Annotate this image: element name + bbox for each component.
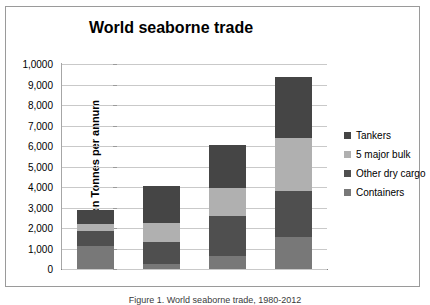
- bar-segment-other-dry-cargo[interactable]: [77, 231, 114, 246]
- bar-2000[interactable]: [209, 64, 246, 269]
- bar-segment-containers[interactable]: [209, 256, 246, 269]
- legend-label: Tankers: [356, 131, 391, 141]
- y-tick-label: 5,000: [7, 161, 53, 172]
- bar-2012[interactable]: [275, 64, 312, 269]
- bar-segment-tankers[interactable]: [275, 77, 312, 137]
- legend-label: 5 major bulk: [356, 150, 410, 160]
- legend-swatch-icon: [344, 189, 351, 196]
- bar-segment-5-major-bulk[interactable]: [143, 223, 180, 242]
- chart-legend: Tankers5 major bulkOther dry cargoContai…: [344, 126, 425, 202]
- bar-segment-tankers[interactable]: [209, 145, 246, 188]
- bar-segment-5-major-bulk[interactable]: [77, 224, 114, 231]
- chart-title: World seaborne trade: [6, 19, 336, 37]
- figure-container: World seaborne trade Billion Tonnes per …: [0, 0, 430, 305]
- y-tick-label: 1,000: [7, 243, 53, 254]
- bar-segment-other-dry-cargo[interactable]: [143, 242, 180, 264]
- bar-segment-containers[interactable]: [275, 237, 312, 269]
- legend-swatch-icon: [344, 151, 351, 158]
- legend-swatch-icon: [344, 132, 351, 139]
- y-tick-label: 1,0000: [7, 59, 53, 70]
- bars-layer: [62, 64, 327, 269]
- gridline: [62, 269, 327, 270]
- y-tick-label: 7,000: [7, 120, 53, 131]
- legend-item-5-major-bulk[interactable]: 5 major bulk: [344, 145, 425, 164]
- legend-label: Containers: [356, 188, 404, 198]
- y-tick-mark: [113, 269, 117, 270]
- legend-label: Other dry cargo: [356, 169, 425, 179]
- legend-item-containers[interactable]: Containers: [344, 183, 425, 202]
- y-tick-label: 9,000: [7, 79, 53, 90]
- y-tick-label: 2,000: [7, 223, 53, 234]
- y-tick-label: 4,000: [7, 182, 53, 193]
- bar-segment-5-major-bulk[interactable]: [209, 188, 246, 216]
- y-tick-label: 8,000: [7, 100, 53, 111]
- y-tick-label: 6,000: [7, 141, 53, 152]
- figure-caption: Figure 1. World seaborne trade, 1980-201…: [0, 295, 430, 305]
- bar-segment-other-dry-cargo[interactable]: [275, 191, 312, 237]
- legend-swatch-icon: [344, 170, 351, 177]
- bar-1990[interactable]: [143, 64, 180, 269]
- bar-segment-tankers[interactable]: [77, 210, 114, 224]
- chart-frame: World seaborne trade Billion Tonnes per …: [5, 6, 420, 287]
- y-tick-label: 0: [7, 264, 53, 275]
- legend-item-tankers[interactable]: Tankers: [344, 126, 425, 145]
- bar-segment-5-major-bulk[interactable]: [275, 138, 312, 191]
- bar-segment-containers[interactable]: [77, 246, 114, 269]
- bar-segment-containers[interactable]: [143, 264, 180, 269]
- y-tick-label: 3,000: [7, 202, 53, 213]
- bar-1980[interactable]: [77, 64, 114, 269]
- bar-segment-tankers[interactable]: [143, 186, 180, 222]
- bar-segment-other-dry-cargo[interactable]: [209, 216, 246, 256]
- legend-item-other-dry-cargo[interactable]: Other dry cargo: [344, 164, 425, 183]
- plot-area: Billion Tonnes per annum 01,0002,0003,00…: [62, 64, 327, 269]
